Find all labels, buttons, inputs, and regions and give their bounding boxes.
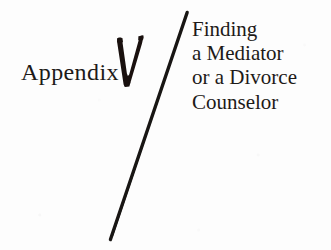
title-line-3: or a Divorce: [192, 65, 327, 89]
title-line-2: a Mediator: [192, 41, 327, 65]
bold-letter-v-glyph: [114, 34, 148, 88]
appendix-title-page: Appendix Finding a Mediator or a Divorce…: [0, 0, 331, 250]
title-line-4: Counselor: [192, 90, 327, 114]
appendix-label: Appendix: [21, 59, 119, 85]
title-line-1: Finding: [192, 17, 327, 41]
appendix-number-v: [114, 34, 148, 88]
appendix-title-block: Finding a Mediator or a Divorce Counselo…: [192, 17, 327, 114]
